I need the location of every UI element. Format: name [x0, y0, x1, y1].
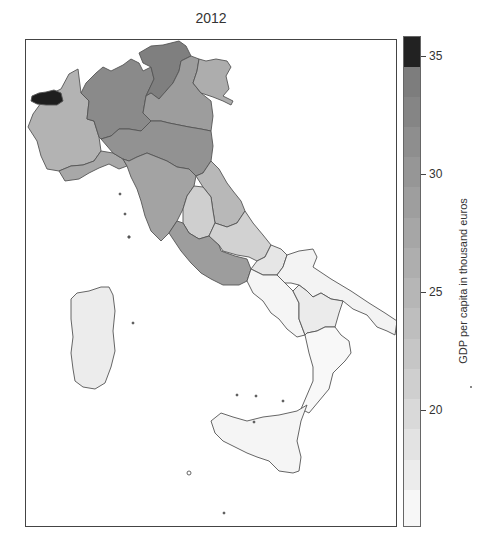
- colorbar-tick: [421, 56, 426, 57]
- colorbar-label: GDP per capita in thousand euros: [457, 198, 469, 364]
- region-calabria: [301, 327, 351, 413]
- island: [187, 471, 191, 475]
- colorbar: [403, 36, 421, 527]
- colorbar-tick-label: 35: [429, 49, 442, 63]
- colorbar-tick-label: 30: [429, 167, 442, 181]
- island: [128, 236, 130, 238]
- island: [255, 395, 257, 397]
- island: [253, 421, 255, 423]
- colorbar-tick-label: 25: [429, 285, 442, 299]
- chart-title: 2012: [0, 10, 422, 26]
- colorbar-tick-label: 20: [429, 403, 442, 417]
- artifact-dot: [470, 386, 472, 388]
- region-valle-daosta: [31, 90, 63, 105]
- island: [119, 193, 121, 195]
- region-sardegna: [71, 287, 115, 389]
- colorbar-tick: [421, 292, 426, 293]
- island: [223, 512, 225, 514]
- colorbar-tick: [421, 174, 426, 175]
- island: [132, 322, 134, 324]
- region-sicilia: [211, 405, 307, 473]
- island: [124, 213, 126, 215]
- island: [236, 394, 238, 396]
- island: [282, 400, 284, 402]
- colorbar-tick: [421, 410, 426, 411]
- italy-map: [26, 40, 396, 526]
- map-plot-area: [25, 39, 397, 527]
